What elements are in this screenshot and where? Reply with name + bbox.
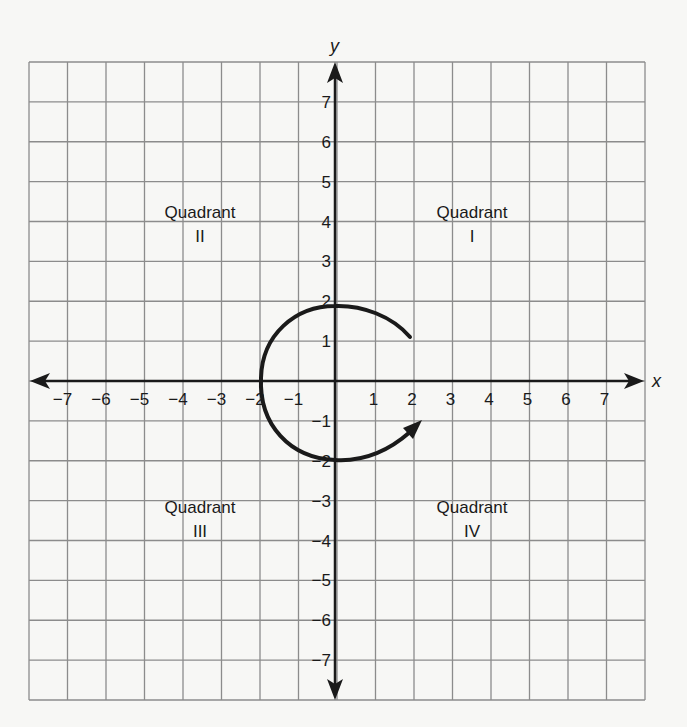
quadrant-iv-label: Quadrant	[437, 498, 508, 517]
quadrant-iii-numeral: III	[193, 522, 207, 541]
x-tick-label: 6	[561, 390, 570, 409]
y-tick-label: 4	[322, 213, 331, 232]
x-tick-label: 5	[523, 390, 532, 409]
x-tick-label: 7	[600, 390, 609, 409]
x-tick-label: 4	[484, 390, 493, 409]
x-tick-label: −6	[91, 390, 110, 409]
quadrant-ii-numeral: II	[195, 227, 204, 246]
x-tick-label: −5	[130, 390, 149, 409]
x-tick-labels: −7−6−5−4−3−2−11234567	[53, 390, 609, 409]
counterclockwise-rotation-arrow	[261, 306, 422, 460]
y-tick-label: −1	[312, 412, 331, 431]
y-tick-label: −5	[312, 571, 331, 590]
x-tick-label: 1	[369, 390, 378, 409]
x-tick-label: 2	[407, 390, 416, 409]
y-tick-label: −4	[312, 532, 331, 551]
y-tick-label: 6	[322, 133, 331, 152]
x-tick-label: −4	[168, 390, 187, 409]
quadrant-i-label: Quadrant	[437, 203, 508, 222]
coordinate-plane-diagram: x y −7−6−5−4−3−2−11234567 7654321−1−2−3−…	[0, 0, 687, 727]
x-tick-label: 3	[446, 390, 455, 409]
y-tick-label: 3	[322, 252, 331, 271]
x-tick-label: −3	[207, 390, 226, 409]
x-axis-label: x	[651, 371, 662, 391]
quadrant-iii-label: Quadrant	[165, 498, 236, 517]
y-axis-label: y	[328, 36, 340, 56]
x-tick-label: −1	[284, 390, 303, 409]
y-tick-label: −7	[312, 651, 331, 670]
y-tick-label: −6	[312, 611, 331, 630]
y-tick-label: 5	[322, 173, 331, 192]
y-tick-label: −3	[312, 492, 331, 511]
quadrant-ii-label: Quadrant	[165, 203, 236, 222]
y-tick-label: 7	[322, 93, 331, 112]
y-tick-label: 1	[322, 332, 331, 351]
quadrant-i-numeral: I	[470, 227, 475, 246]
x-tick-label: −7	[53, 390, 72, 409]
axes: x y	[30, 36, 662, 700]
quadrant-iv-numeral: IV	[464, 522, 481, 541]
